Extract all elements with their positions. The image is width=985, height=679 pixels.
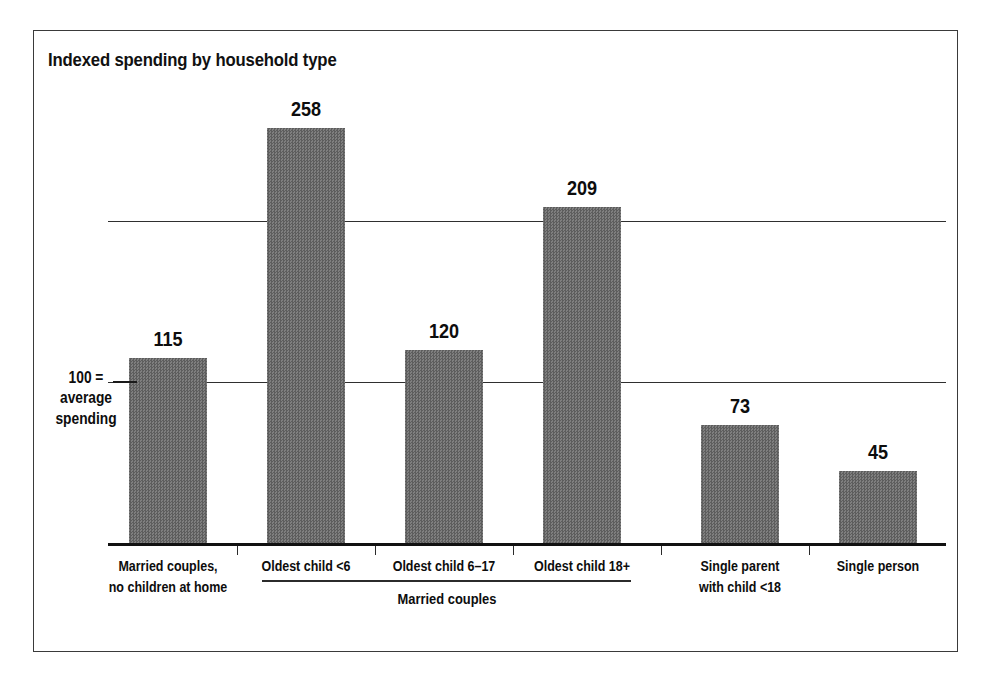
category-label-line: Married couples, <box>95 556 241 577</box>
category-label: Single person <box>805 556 951 577</box>
chart-figure: Indexed spending by household type 11525… <box>0 0 985 679</box>
x-axis-baseline <box>108 543 946 546</box>
group-bracket-line <box>262 580 631 582</box>
axis-tick <box>661 546 662 555</box>
category-label-line: no children at home <box>95 577 241 598</box>
category-label-line: Oldest child 6–17 <box>371 556 517 577</box>
category-label: Oldest child 6–17 <box>371 556 517 577</box>
category-label: Oldest child <6 <box>233 556 379 577</box>
axis-note-line-1: 100 = <box>55 368 117 388</box>
category-label-line: Oldest child <6 <box>233 556 379 577</box>
category-label: Single parentwith child <18 <box>667 556 813 598</box>
axis-note-line-3: spending <box>55 409 117 429</box>
category-label-line: with child <18 <box>667 577 813 598</box>
bar <box>701 425 779 543</box>
category-label-line: Single parent <box>667 556 813 577</box>
bar-value-label: 115 <box>125 327 211 351</box>
bar <box>405 350 483 543</box>
category-label: Married couples,no children at home <box>95 556 241 598</box>
bar <box>839 471 917 543</box>
category-label-line: Oldest child 18+ <box>509 556 655 577</box>
bar <box>267 128 345 543</box>
plot-area: 1152581202097345 Married couples,no chil… <box>0 0 985 679</box>
bar-value-label: 258 <box>263 97 349 121</box>
bar <box>129 358 207 543</box>
gridline-200 <box>108 221 946 222</box>
category-label-line: Single person <box>805 556 951 577</box>
bar-value-label: 73 <box>697 394 783 418</box>
axis-tick <box>809 546 810 555</box>
gridline-100 <box>108 382 946 383</box>
category-label: Oldest child 18+ <box>509 556 655 577</box>
bar <box>543 207 621 543</box>
bar-value-label: 45 <box>835 440 921 464</box>
axis-tick <box>513 546 514 555</box>
axis-tick <box>375 546 376 555</box>
axis-tick <box>237 546 238 555</box>
axis-note: 100 = average spending <box>55 368 117 429</box>
axis-note-line-2: average <box>55 388 117 408</box>
group-bracket-label: Married couples <box>361 590 533 607</box>
bar-value-label: 209 <box>539 176 625 200</box>
bar-value-label: 120 <box>401 319 487 343</box>
